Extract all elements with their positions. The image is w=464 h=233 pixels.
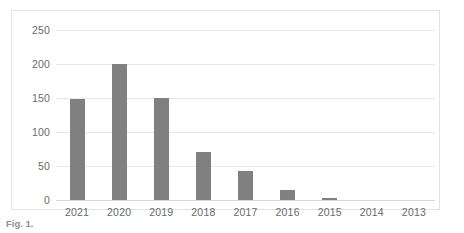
y-tick-label: 200 xyxy=(32,58,50,70)
bar-2018[interactable] xyxy=(196,152,211,200)
y-tick-label: 150 xyxy=(32,92,50,104)
y-tick-label: 100 xyxy=(32,126,50,138)
bar-slot-2020 xyxy=(98,30,140,200)
x-tick-label: 2020 xyxy=(107,206,131,218)
bar-2016[interactable] xyxy=(280,190,295,200)
figure-caption: Fig. 1. xyxy=(6,218,458,230)
bar-slot-2015 xyxy=(309,30,351,200)
bar-2020[interactable] xyxy=(112,64,127,200)
bar-slot-2018 xyxy=(182,30,224,200)
caption-label: Fig. 1. xyxy=(6,218,33,229)
x-tick-label: 2016 xyxy=(276,206,300,218)
bar-group xyxy=(56,30,435,200)
y-tick-label: 50 xyxy=(38,160,50,172)
x-tick-label: 2017 xyxy=(233,206,257,218)
bar-slot-2016 xyxy=(267,30,309,200)
x-tick-label: 2021 xyxy=(65,206,89,218)
x-tick-label: 2013 xyxy=(402,206,426,218)
plot-area: 050100150200250 xyxy=(56,30,435,200)
bar-2017[interactable] xyxy=(238,171,253,200)
bar-slot-2017 xyxy=(224,30,266,200)
bar-slot-2014 xyxy=(351,30,393,200)
bar-2021[interactable] xyxy=(70,99,85,200)
x-tick-label: 2014 xyxy=(360,206,384,218)
x-tick-label: 2015 xyxy=(318,206,342,218)
x-tick-label: 2018 xyxy=(191,206,215,218)
y-tick-label: 0 xyxy=(44,194,50,206)
bar-slot-2013 xyxy=(393,30,435,200)
figure: 050100150200250 202120202019201820172016… xyxy=(0,0,464,233)
chart-frame: 050100150200250 202120202019201820172016… xyxy=(11,10,440,210)
bar-2019[interactable] xyxy=(154,98,169,200)
x-tick-label: 2019 xyxy=(149,206,173,218)
gridline-0: 0 xyxy=(56,200,435,201)
y-tick-label: 250 xyxy=(32,24,50,36)
bar-slot-2021 xyxy=(56,30,98,200)
bar-slot-2019 xyxy=(140,30,182,200)
bar-2015[interactable] xyxy=(322,198,337,200)
